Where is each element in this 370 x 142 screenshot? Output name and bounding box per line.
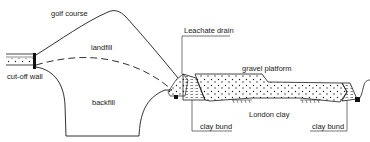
label-landfill: landfill <box>91 44 112 52</box>
label-leachate-drain: Leachate drain <box>184 27 234 35</box>
leachate-drain-pipe <box>174 95 178 99</box>
label-cut-off-wall: cut-off wall <box>7 73 43 81</box>
landfill-cross-section-diagram <box>0 0 370 142</box>
label-backfill: backfill <box>92 99 115 107</box>
label-clay-bund-right: clay bund <box>312 123 344 131</box>
right-ditch <box>357 80 370 99</box>
label-golf-course: golf course <box>51 10 88 18</box>
left-ground-strip <box>6 54 35 65</box>
clay-base-hatching <box>232 100 320 103</box>
label-london-clay: London clay <box>249 111 289 119</box>
cut-off-wall <box>33 53 36 69</box>
landfill-backfill-boundary <box>36 58 172 90</box>
label-clay-bund-left: clay bund <box>200 123 232 131</box>
gravel-platform <box>195 74 347 102</box>
label-gravel-platform: gravel platform <box>242 65 292 73</box>
